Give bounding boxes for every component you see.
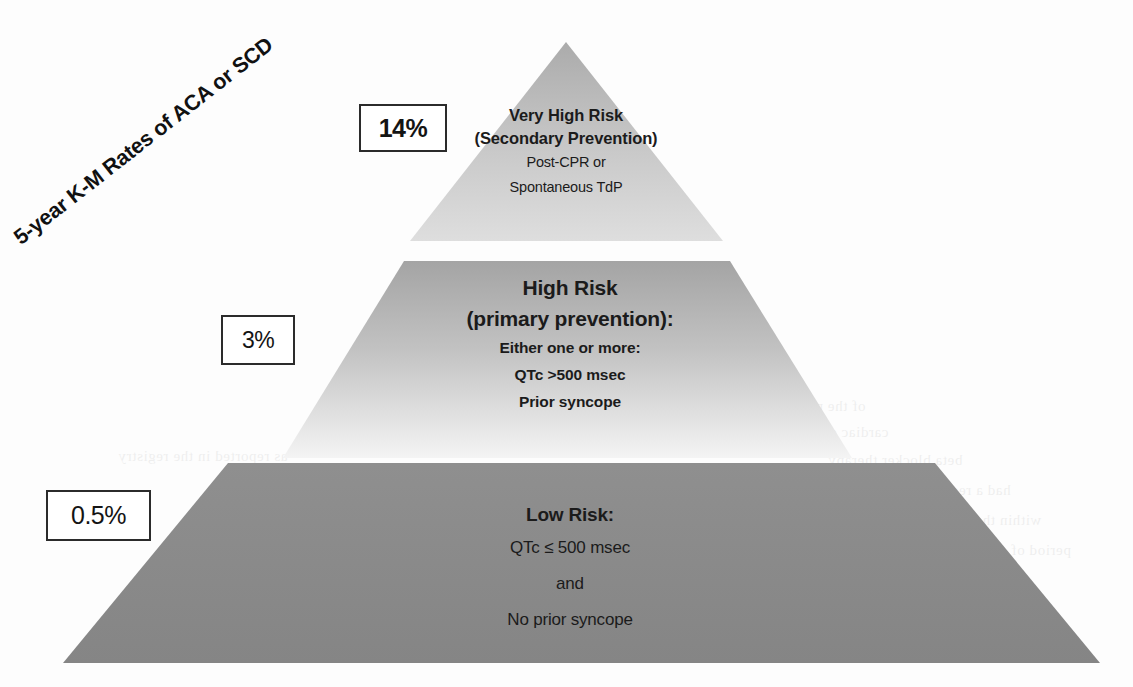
pyramid-tier-low bbox=[63, 463, 1100, 663]
pyramid-tier-high bbox=[283, 261, 852, 458]
percent-box-high: 3% bbox=[221, 315, 295, 365]
percent-box-very-high: 14% bbox=[359, 104, 447, 152]
percent-box-low: 0.5% bbox=[46, 490, 151, 541]
figure-canvas: of the patients with a prior cardiac eve… bbox=[0, 0, 1133, 687]
risk-pyramid-graphic bbox=[0, 0, 1133, 687]
pyramid-tier-very-high bbox=[410, 42, 723, 241]
